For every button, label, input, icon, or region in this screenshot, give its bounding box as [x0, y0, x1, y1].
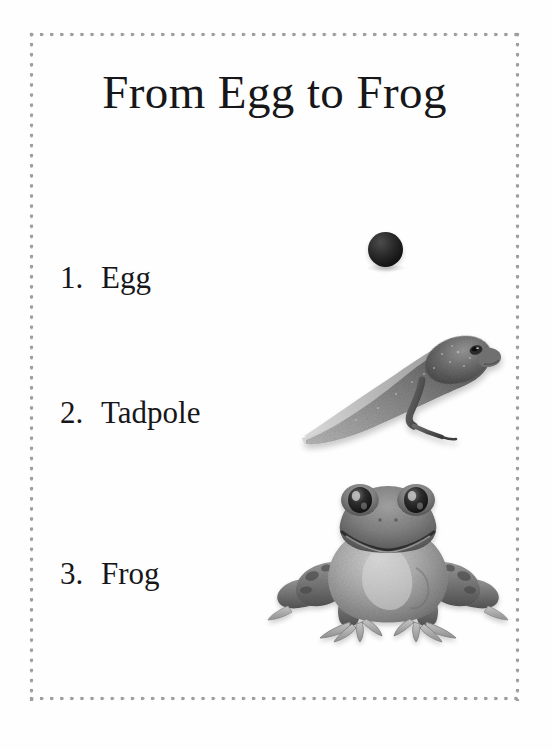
stage-number-2: 2.: [60, 397, 101, 428]
dotted-border-top: [29, 32, 520, 37]
tadpole-illustration: [292, 318, 504, 448]
dotted-border-bottom: [29, 696, 520, 701]
dotted-border-left: [29, 32, 34, 701]
stage-label-tadpole: 2. Tadpole: [60, 397, 200, 428]
stage-label-frog: 3. Frog: [60, 558, 160, 589]
stage-name-frog: Frog: [101, 558, 160, 589]
egg-image: [310, 216, 470, 286]
dotted-border-right: [515, 32, 520, 701]
stage-number-3: 3.: [60, 558, 101, 589]
egg-sphere: [368, 232, 403, 267]
stage-label-egg: 1. Egg: [60, 262, 151, 293]
stage-name-egg: Egg: [101, 262, 151, 293]
worksheet-page: From Egg to Frog 1. Egg 2. Tadpole: [0, 0, 552, 750]
page-title: From Egg to Frog: [29, 68, 520, 117]
tadpole-image: [292, 318, 504, 448]
frog-illustration: [268, 476, 508, 644]
stage-number-1: 1.: [60, 262, 101, 293]
stage-name-tadpole: Tadpole: [101, 397, 200, 428]
frog-image: [268, 476, 508, 644]
